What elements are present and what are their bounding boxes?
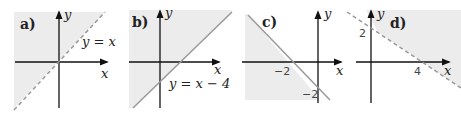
line-label: y = x − 4	[168, 76, 230, 91]
y-axis-label: y	[63, 7, 72, 22]
y-axis-label: y	[164, 5, 173, 20]
panel-a: a) y x y = x	[14, 7, 117, 110]
y-tick-label: 2	[359, 27, 366, 40]
x-tick-label: −2	[274, 65, 290, 78]
panel-label: a)	[20, 16, 36, 32]
x-tick-label: 4	[414, 65, 421, 78]
panel-label: d)	[390, 15, 406, 31]
x-axis-label: x	[444, 63, 452, 78]
x-axis-label: x	[214, 62, 222, 77]
x-axis-label: x	[336, 63, 344, 78]
panel-d: d) y x 2 4	[347, 6, 461, 103]
panel-label: c)	[262, 14, 277, 30]
y-axis-label: y	[323, 6, 332, 21]
line-label: y = x	[81, 34, 117, 49]
panel-label: b)	[132, 14, 148, 30]
panel-c: c) y x −2 −2	[242, 6, 344, 103]
x-axis-label: x	[101, 66, 109, 81]
inequality-graphs: a) y x y = x b) y x y = x − 4 c) y x −2 …	[0, 0, 461, 115]
y-tick-label: −2	[302, 88, 318, 101]
panel-b: b) y x y = x − 4	[129, 5, 232, 108]
y-axis-label: y	[376, 6, 385, 21]
